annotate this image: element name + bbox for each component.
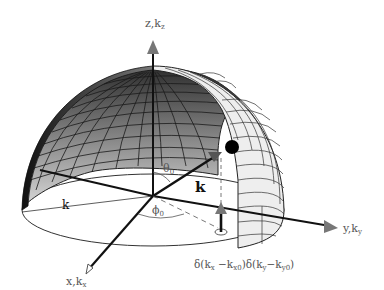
z-axis-label: z,kz bbox=[145, 17, 165, 31]
z-axis-arrowhead bbox=[147, 40, 159, 54]
delta-expression: δ(kx −kx0)δ(ky−ky0) bbox=[194, 258, 294, 272]
k-vector-label: k bbox=[195, 178, 206, 196]
phi-label: ϕ0 bbox=[152, 204, 164, 218]
y-axis-label: y,ky bbox=[342, 222, 362, 236]
point-on-sphere bbox=[225, 140, 239, 154]
k-radius-label: k bbox=[62, 198, 70, 212]
radius-line bbox=[22, 196, 153, 212]
hemisphere-diagram: z,kz y,ky x,kx θ0 ϕ0 k k δ(kx −kx0)δ(ky−… bbox=[0, 0, 384, 290]
y-axis-arrowhead bbox=[324, 220, 338, 233]
x-axis bbox=[88, 196, 153, 270]
x-axis-label: x,kx bbox=[66, 275, 86, 289]
